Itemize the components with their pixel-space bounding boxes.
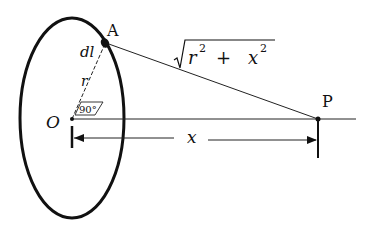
distance-plus: + — [216, 47, 231, 68]
point-o — [70, 117, 74, 121]
point-o-label: O — [46, 112, 60, 132]
axis-distance-label: x — [187, 127, 197, 147]
point-a-label: A — [106, 21, 119, 40]
distance-x-sup: 2 — [260, 42, 267, 55]
line-a-to-p — [106, 43, 318, 119]
distance-x: x — [248, 47, 258, 68]
point-p-label: P — [322, 92, 333, 111]
distance-r-sup: 2 — [199, 42, 206, 55]
arrowhead-right — [307, 136, 317, 144]
element-label: dl — [80, 43, 95, 61]
distance-label: r 2 + x 2 — [174, 40, 275, 68]
radius-label: r — [81, 73, 89, 89]
distance-r: r — [188, 47, 198, 68]
loop-diagram: 90° x A O P dl r r 2 + x 2 — [0, 0, 367, 233]
angle-label: 90° — [79, 104, 97, 115]
arrowhead-left — [74, 134, 84, 142]
